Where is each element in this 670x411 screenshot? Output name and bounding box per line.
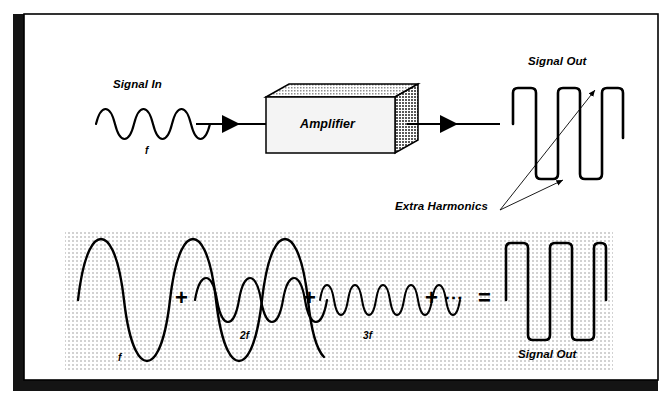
amplifier-top-face (266, 84, 418, 97)
figure-root: Signal In f Amplifier Signal Out Extra H… (0, 0, 670, 411)
operator-plus-1: + (175, 287, 188, 309)
signal-in-label: Signal In (113, 78, 162, 90)
term-label-2f: 2f (240, 330, 249, 341)
term-label-3f: 3f (363, 330, 372, 341)
signal-out-label-bottom: Signal Out (518, 348, 577, 360)
operator-plus-2: + (303, 287, 316, 309)
extra-harmonics-label: Extra Harmonics (395, 200, 488, 212)
signal-out-label-top: Signal Out (528, 55, 587, 67)
operator-equals: = (478, 287, 491, 309)
amplifier-label: Amplifier (300, 117, 355, 131)
operator-plus-3: + (425, 287, 438, 309)
input-frequency-label: f (145, 145, 148, 156)
operator-ellipsis: ⋯ (444, 288, 464, 307)
amplifier-side-face (395, 84, 418, 153)
term-label-f: f (118, 352, 121, 363)
